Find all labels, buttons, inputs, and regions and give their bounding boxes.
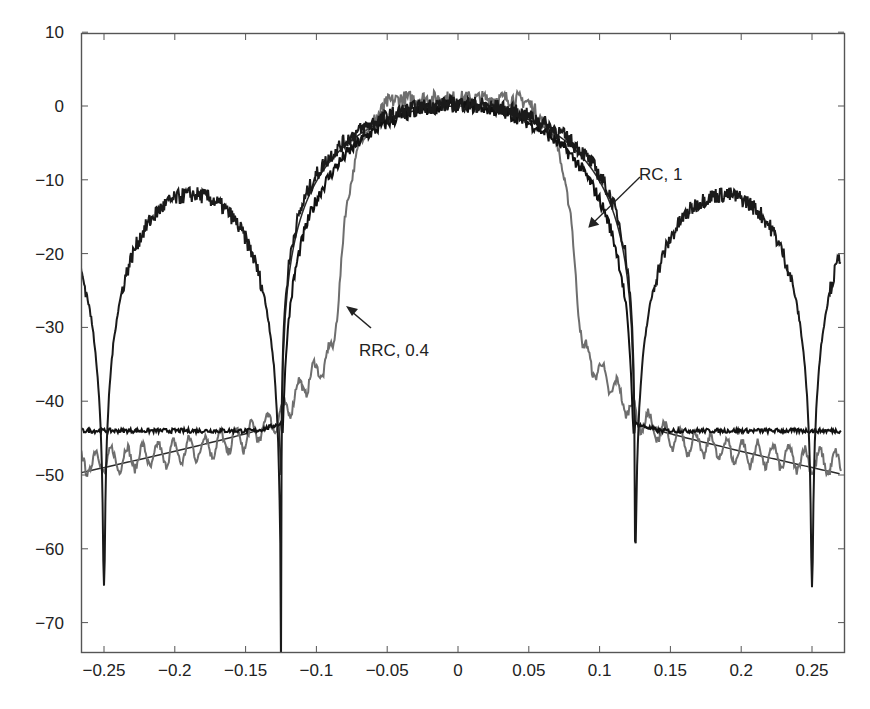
x-tick-label: 0.15	[654, 661, 687, 680]
y-tick-label: −40	[35, 392, 64, 411]
annotation-rc: RC, 1	[639, 165, 682, 184]
y-tick-label: −30	[35, 318, 64, 337]
x-tick-label: 0.2	[729, 661, 753, 680]
y-axis: 100−10−20−30−40−50−60−70	[35, 23, 844, 632]
y-tick-label: 10	[45, 23, 64, 42]
x-tick-label: −0.05	[366, 661, 409, 680]
plot-frame	[82, 34, 845, 653]
x-tick-label: 0	[453, 661, 462, 680]
y-tick-label: −70	[35, 614, 64, 633]
y-tick-label: −10	[35, 171, 64, 190]
x-axis: −0.25−0.2−0.15−0.1−0.0500.050.10.150.20.…	[82, 34, 828, 680]
envelope-curve	[73, 106, 840, 475]
rc-inner-curve	[73, 100, 841, 433]
x-tick-label: 0.1	[588, 661, 612, 680]
x-tick-label: −0.1	[300, 661, 334, 680]
series-layer	[73, 91, 841, 667]
x-tick-label: 0.25	[795, 661, 828, 680]
spectrum-chart: −0.25−0.2−0.15−0.1−0.0500.050.10.150.20.…	[0, 0, 870, 709]
y-tick-label: −20	[35, 245, 64, 264]
rc-curve	[73, 96, 840, 667]
y-tick-label: −60	[35, 540, 64, 559]
y-tick-label: 0	[55, 97, 64, 116]
annotation-rrc: RRC, 0.4	[359, 341, 429, 360]
x-tick-label: −0.2	[158, 661, 192, 680]
x-tick-label: −0.15	[224, 661, 267, 680]
rrc-curve	[73, 91, 841, 476]
y-tick-label: −50	[35, 466, 64, 485]
x-tick-label: 0.05	[512, 661, 545, 680]
x-tick-label: −0.25	[82, 661, 125, 680]
